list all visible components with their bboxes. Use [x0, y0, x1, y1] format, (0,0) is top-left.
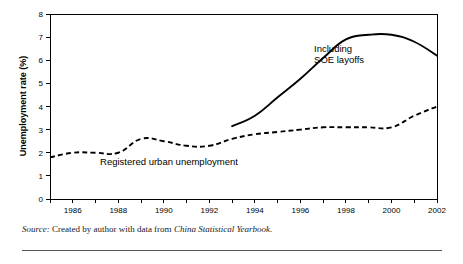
data-series-group	[50, 34, 437, 158]
y-tick-label: 2	[39, 149, 44, 158]
y-axis-ticks: 012345678	[39, 10, 50, 204]
x-tick-label: 1990	[155, 206, 173, 215]
x-tick-label: 1994	[246, 206, 264, 215]
x-tick-label: 2002	[428, 206, 446, 215]
annotation-including-soe-layoffs-line1: Including	[314, 43, 352, 54]
y-axis-title-label: Unemployment rate (%)	[18, 56, 28, 157]
figure-container: 012345678 198619881990199219941996199820…	[0, 0, 463, 264]
y-axis-title: Unemployment rate (%)	[18, 56, 28, 157]
x-tick-label: 1996	[292, 206, 310, 215]
annotation-registered-urban-unemployment: Registered urban unemployment	[100, 156, 238, 167]
x-tick-label: 1988	[109, 206, 127, 215]
series-registered-urban-unemployment	[50, 107, 437, 158]
x-tick-label: 1998	[337, 206, 355, 215]
annotation-including-soe-layoffs-line2: SOE layoffs	[314, 54, 364, 65]
y-tick-label: 1	[39, 172, 44, 181]
y-tick-label: 4	[39, 103, 44, 112]
source-text-before: Created by author with data from	[50, 224, 174, 234]
y-tick-label: 5	[39, 79, 44, 88]
y-tick-label: 0	[39, 195, 44, 204]
y-tick-label: 3	[39, 126, 44, 135]
x-tick-label: 1992	[200, 206, 218, 215]
y-tick-label: 7	[39, 33, 44, 42]
source-work-title: China Statistical Yearbook	[174, 224, 270, 234]
source-label: Source:	[22, 224, 50, 234]
x-axis-ticks: 198619881990199219941996199820002002	[50, 199, 446, 215]
plot-frame	[50, 14, 437, 199]
source-text-after: .	[270, 224, 272, 234]
x-tick-label: 2000	[383, 206, 401, 215]
y-tick-label: 6	[39, 56, 44, 65]
series-annotations: Registered urban unemployment Including …	[100, 43, 364, 167]
y-tick-label: 8	[39, 10, 44, 19]
bottom-divider	[22, 250, 442, 251]
source-note: Source: Created by author with data from…	[22, 224, 272, 234]
x-tick-label: 1986	[64, 206, 82, 215]
